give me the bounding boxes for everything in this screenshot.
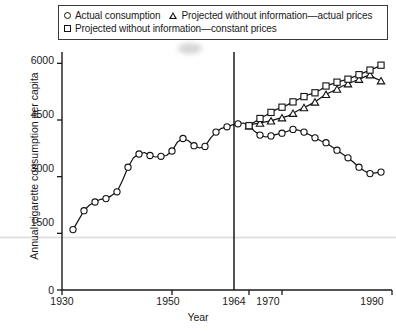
data-point (268, 133, 274, 139)
data-point (334, 147, 340, 153)
data-point (322, 91, 329, 97)
data-point (191, 143, 197, 149)
xtick-label-1990: 1990 (360, 295, 383, 307)
data-point (92, 199, 98, 205)
data-point (246, 123, 252, 129)
data-point (279, 130, 285, 136)
data-point (257, 132, 263, 138)
series-2 (245, 72, 384, 129)
data-point (202, 143, 208, 149)
data-point (224, 124, 230, 130)
data-point (323, 140, 329, 146)
x-axis-label: Year (0, 311, 396, 323)
data-point (356, 72, 362, 78)
data-point (147, 152, 153, 158)
data-point (312, 135, 318, 141)
data-point (158, 153, 164, 159)
data-point (278, 115, 285, 121)
data-point (367, 67, 373, 73)
series-1 (70, 121, 384, 233)
axis-ticks (57, 63, 392, 295)
data-series-layer (70, 62, 385, 233)
xtick-label-1970: 1970 (256, 295, 279, 307)
data-point (235, 121, 241, 127)
data-point (103, 196, 109, 202)
xtick-label-1950: 1950 (156, 295, 179, 307)
data-point (334, 79, 340, 85)
data-point (125, 164, 131, 170)
data-point (290, 99, 296, 105)
data-point (81, 208, 87, 214)
data-point (268, 109, 274, 115)
data-point (301, 94, 307, 100)
data-point (378, 62, 384, 68)
data-point (312, 90, 318, 96)
data-point (114, 189, 120, 195)
xtick-label-1964: 1964 (222, 295, 245, 307)
data-point (323, 83, 329, 89)
data-point (70, 227, 76, 233)
data-point (356, 164, 362, 170)
data-point (257, 115, 263, 121)
xtick-label-1930: 1930 (50, 295, 73, 307)
data-point (290, 126, 296, 132)
series-3 (246, 62, 384, 129)
data-point (169, 148, 175, 154)
data-point (377, 78, 384, 84)
data-point (180, 135, 186, 141)
chart-figure: Actual consumption Projected without inf… (0, 0, 396, 333)
data-point (367, 171, 373, 177)
data-point (333, 86, 340, 92)
data-point (213, 129, 219, 135)
data-point (289, 110, 296, 116)
data-point (345, 155, 351, 161)
plot-area (0, 0, 396, 333)
data-point (300, 104, 307, 110)
data-point (378, 169, 384, 175)
y-axis-label: Annual cigarette consumption per capita (28, 46, 40, 286)
axis-lines (62, 52, 392, 290)
data-point (345, 76, 351, 82)
data-point (136, 151, 142, 157)
data-point (279, 104, 285, 110)
data-point (301, 129, 307, 135)
